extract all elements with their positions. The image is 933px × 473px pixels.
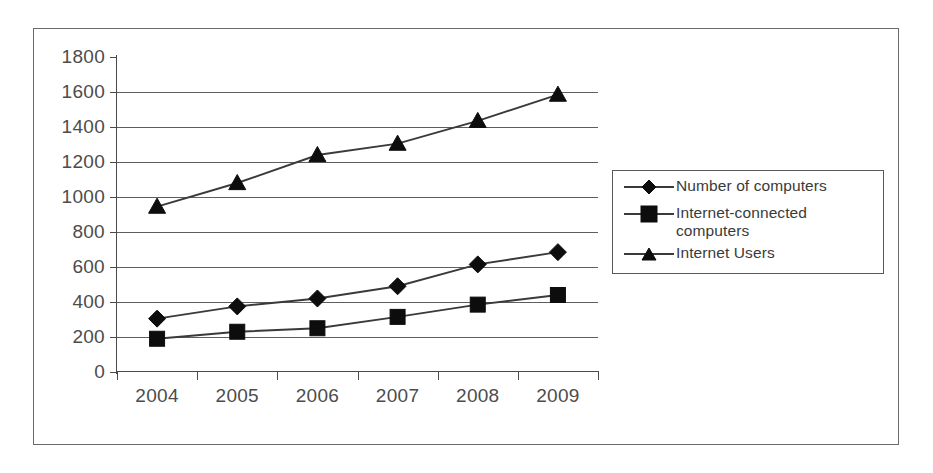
y-tick-label: 1400 [45, 117, 105, 136]
x-tick-label: 2008 [433, 386, 523, 405]
gridline [117, 162, 598, 163]
x-tick-mark [598, 372, 599, 380]
y-tick-label: 1200 [45, 152, 105, 171]
gridline [117, 92, 598, 93]
y-tick-label: 1800 [45, 47, 105, 66]
y-tick-mark [110, 267, 117, 268]
y-tick-mark [110, 57, 117, 58]
legend-entry[interactable]: Internet-connected computers [622, 204, 807, 240]
legend-label: Number of computers [676, 177, 827, 195]
y-tick-label: 0 [45, 362, 105, 381]
y-tick-label: 800 [45, 222, 105, 241]
gridline [117, 127, 598, 128]
y-tick-mark [110, 127, 117, 128]
y-tick-label: 200 [45, 327, 105, 346]
y-tick-mark [110, 92, 117, 93]
x-tick-label: 2004 [112, 386, 202, 405]
gridline [117, 267, 598, 268]
x-tick-mark [197, 372, 198, 380]
y-axis-line [116, 55, 117, 374]
y-tick-label: 1600 [45, 82, 105, 101]
x-tick-label: 2007 [353, 386, 443, 405]
gridline [117, 232, 598, 233]
x-tick-mark [117, 372, 118, 380]
y-tick-mark [110, 302, 117, 303]
triangle-marker-icon [622, 245, 676, 263]
x-tick-mark [277, 372, 278, 380]
x-tick-mark [358, 372, 359, 380]
legend-label: Internet-connected computers [676, 204, 807, 240]
legend-entry[interactable]: Number of computers [622, 177, 827, 196]
square-marker-icon [622, 205, 676, 223]
x-tick-label: 2006 [272, 386, 362, 405]
y-tick-mark [110, 337, 117, 338]
y-tick-mark [110, 372, 117, 373]
gridline [117, 337, 598, 338]
chart-figure: 020040060080010001200140016001800 200420… [0, 0, 933, 473]
y-tick-mark [110, 197, 117, 198]
diamond-marker-icon [622, 178, 676, 196]
y-tick-label: 1000 [45, 187, 105, 206]
x-tick-label: 2009 [513, 386, 603, 405]
x-tick-mark [438, 372, 439, 380]
x-tick-mark [518, 372, 519, 380]
gridline [117, 302, 598, 303]
legend-label: Internet Users [676, 244, 775, 262]
y-tick-label: 400 [45, 292, 105, 311]
chart-legend: Number of computersInternet-connected co… [612, 170, 884, 274]
x-tick-label: 2005 [192, 386, 282, 405]
y-tick-mark [110, 232, 117, 233]
y-tick-label: 600 [45, 257, 105, 276]
y-tick-mark [110, 162, 117, 163]
gridline [117, 197, 598, 198]
legend-entry[interactable]: Internet Users [622, 244, 775, 263]
plot-area [117, 57, 598, 372]
